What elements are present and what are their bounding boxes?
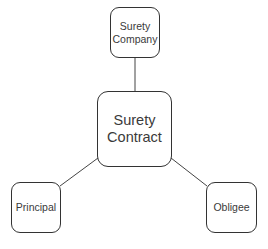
node-surety-company: Surety Company — [110, 7, 160, 58]
node-label: Surety Contract — [107, 112, 162, 146]
node-label: Surety Company — [113, 20, 158, 46]
node-obligee: Obligee — [206, 182, 257, 233]
node-label: Obligee — [213, 201, 249, 214]
node-label: Principal — [16, 201, 56, 214]
node-principal: Principal — [11, 182, 61, 233]
edge-contract-principal — [60, 158, 98, 186]
surety-diagram: Surety Company Surety Contract Principal… — [0, 0, 268, 249]
edge-contract-obligee — [171, 158, 207, 186]
node-surety-contract: Surety Contract — [97, 91, 172, 167]
